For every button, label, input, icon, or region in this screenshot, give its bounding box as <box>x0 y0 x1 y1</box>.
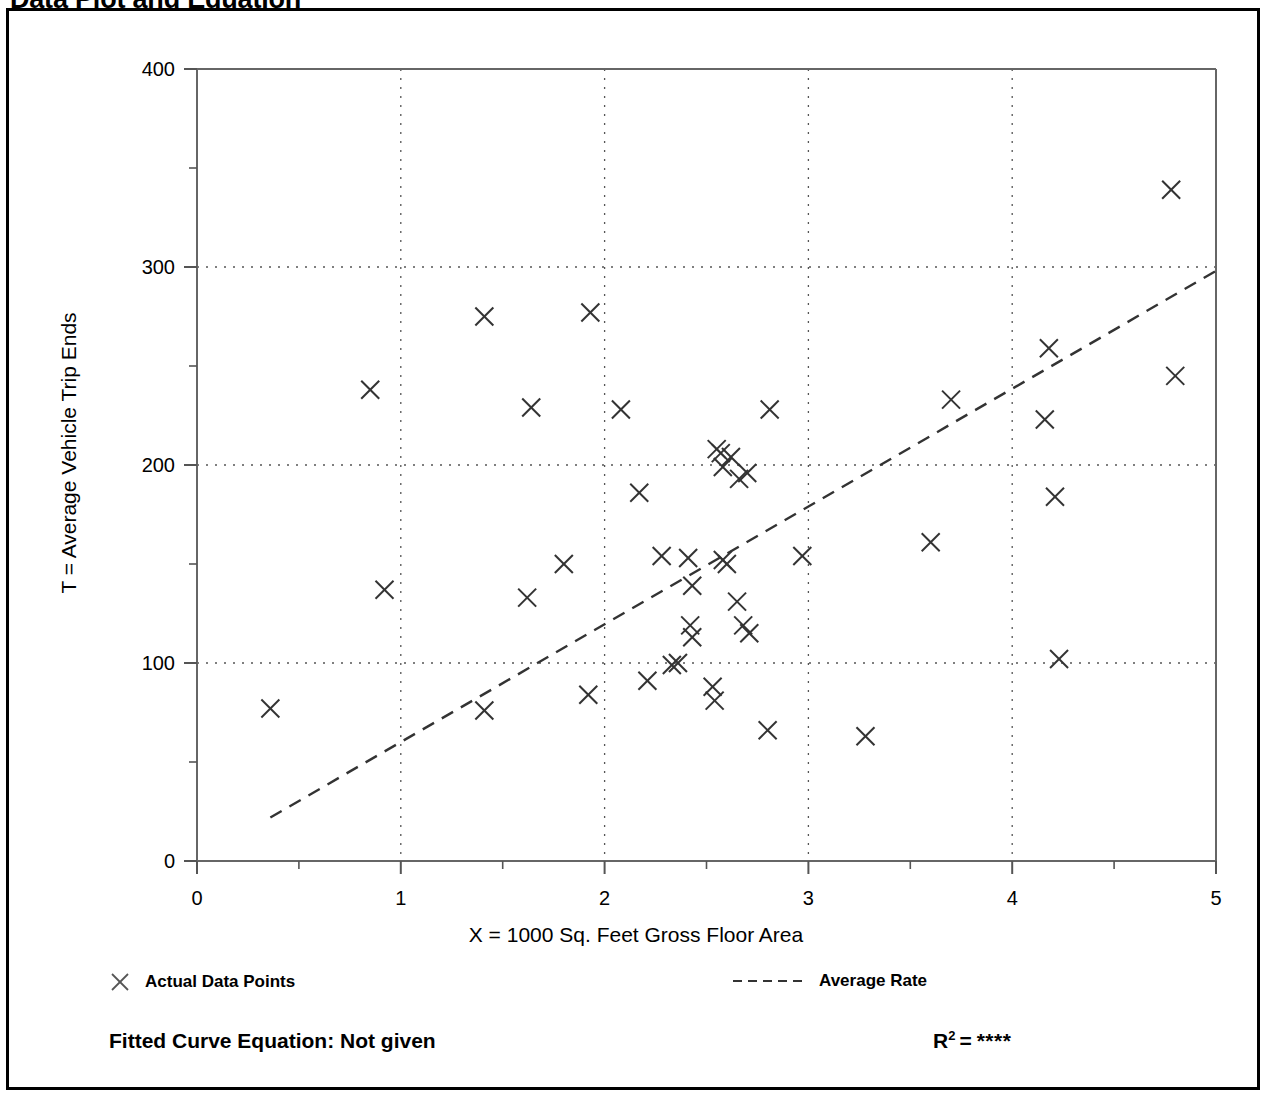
gridlines-group <box>197 69 1216 861</box>
tick-labels-group: 0100200300400012345 <box>142 58 1222 909</box>
data-point-marker <box>261 700 279 718</box>
data-point-marker <box>714 458 732 476</box>
r-squared-equals: = <box>959 1029 971 1053</box>
legend-label-average-rate: Average Rate <box>819 971 927 991</box>
y-tick-label: 0 <box>164 850 175 872</box>
data-point-marker <box>759 721 777 739</box>
data-point-marker <box>1166 367 1184 385</box>
data-point-marker <box>1036 410 1054 428</box>
y-tick-label: 400 <box>142 58 175 80</box>
data-point-marker <box>761 401 779 419</box>
r-squared-value: **** <box>977 1029 1012 1053</box>
fitted-curve-equation: Fitted Curve Equation: Not given <box>109 1029 436 1053</box>
x-tick-label: 2 <box>599 887 610 909</box>
data-point-marker <box>679 549 697 567</box>
x-tick-label: 5 <box>1210 887 1221 909</box>
x-tick-label: 0 <box>191 887 202 909</box>
y-tick-label: 300 <box>142 256 175 278</box>
figure-frame: 0100200300400012345 T = Average Vehicle … <box>6 8 1260 1090</box>
data-point-marker <box>518 589 536 607</box>
data-point-marker <box>738 464 756 482</box>
data-point-marker <box>663 656 681 674</box>
data-point-marker <box>653 547 671 565</box>
x-tick-label: 1 <box>395 887 406 909</box>
r-squared-exponent: 2 <box>948 1028 955 1043</box>
data-point-marker <box>581 304 599 322</box>
y-tick-label: 100 <box>142 652 175 674</box>
data-point-marker <box>734 616 752 634</box>
data-point-marker <box>1046 488 1064 506</box>
data-point-marker <box>375 581 393 599</box>
data-point-marker <box>718 555 736 573</box>
equation-row: Fitted Curve Equation: Not given R2=**** <box>9 1029 1263 1069</box>
data-point-marker <box>1040 339 1058 357</box>
legend-item-actual-data-points: Actual Data Points <box>109 971 295 993</box>
data-point-marker <box>638 672 656 690</box>
data-point-marker <box>740 624 758 642</box>
average-rate-line <box>270 271 1216 817</box>
data-point-marker <box>922 533 940 551</box>
data-point-marker <box>856 727 874 745</box>
data-point-marker <box>706 692 724 710</box>
average-rate-trendline <box>270 271 1216 817</box>
legend-item-average-rate: Average Rate <box>731 971 927 991</box>
r-squared-symbol: R <box>933 1029 948 1053</box>
chart-area: 0100200300400012345 T = Average Vehicle … <box>9 11 1263 1093</box>
axes-group <box>197 69 1216 861</box>
x-tick-label: 3 <box>803 887 814 909</box>
data-point-marker <box>1162 181 1180 199</box>
data-point-marker <box>683 577 701 595</box>
legend: Actual Data Points Average Rate <box>9 971 1263 1011</box>
tick-marks-group <box>184 69 1216 874</box>
data-point-marker <box>475 308 493 326</box>
dashed-line-icon <box>731 976 805 986</box>
data-point-marker <box>475 702 493 720</box>
data-point-marker <box>730 470 748 488</box>
data-point-marker <box>1050 650 1068 668</box>
data-point-marker <box>728 593 746 611</box>
data-point-marker <box>942 391 960 409</box>
x-marker-icon <box>109 971 131 993</box>
r-squared-block: R2=**** <box>933 1029 1011 1053</box>
x-tick-label: 4 <box>1007 887 1018 909</box>
y-tick-label: 200 <box>142 454 175 476</box>
data-point-marker <box>555 555 573 573</box>
y-axis-title: T = Average Vehicle Trip Ends <box>57 243 81 663</box>
data-point-marker <box>522 399 540 417</box>
data-point-marker <box>683 628 701 646</box>
data-point-marker <box>630 484 648 502</box>
x-axis-title: X = 1000 Sq. Feet Gross Floor Area <box>9 923 1263 947</box>
data-point-marker <box>361 381 379 399</box>
legend-label-actual-data-points: Actual Data Points <box>145 972 295 992</box>
data-point-marker <box>612 401 630 419</box>
data-point-marker <box>579 686 597 704</box>
data-point-markers-group <box>261 181 1184 745</box>
